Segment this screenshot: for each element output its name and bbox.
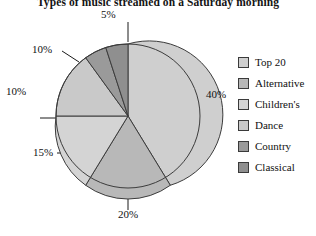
legend-label: Top 20	[255, 57, 286, 68]
pie-label-5: 5%	[101, 8, 116, 20]
pie-svg	[0, 0, 232, 236]
legend-item-alternative: Alternative	[238, 73, 316, 94]
legend-swatch-icon	[238, 57, 249, 68]
legend-label: Alternative	[255, 78, 304, 89]
pie-chart-plot: 40% 20% 15% 10% 10% 5%	[0, 0, 232, 236]
legend-swatch-icon	[238, 120, 249, 131]
legend-item-classical: Classical	[238, 157, 316, 178]
pie-label-20: 20%	[118, 208, 138, 220]
legend-item-dance: Dance	[238, 115, 316, 136]
legend-item-childrens: Children's	[238, 94, 316, 115]
pie-chart-figure: Types of music streamed on a Saturday mo…	[0, 0, 316, 236]
pie-label-10-dance: 10%	[6, 85, 26, 97]
legend-label: Classical	[255, 162, 295, 173]
pie-slices	[55, 41, 223, 199]
legend-item-country: Country	[238, 136, 316, 157]
legend-label: Children's	[255, 99, 300, 110]
chart-legend: Top 20 Alternative Children's Dance Coun…	[238, 52, 316, 178]
pie-label-40: 40%	[206, 88, 226, 100]
legend-label: Country	[255, 141, 291, 152]
legend-label: Dance	[255, 120, 283, 131]
legend-item-top-20: Top 20	[238, 52, 316, 73]
legend-swatch-icon	[238, 162, 249, 173]
leader-line-10b	[62, 51, 79, 62]
legend-swatch-icon	[238, 99, 249, 110]
pie-label-10-country: 10%	[32, 43, 52, 55]
pie-label-15: 15%	[33, 146, 53, 158]
legend-swatch-icon	[238, 78, 249, 89]
legend-swatch-icon	[238, 141, 249, 152]
